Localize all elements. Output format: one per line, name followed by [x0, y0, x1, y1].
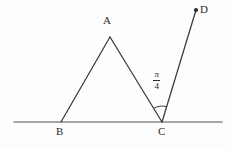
- geometry-canvas: [0, 0, 230, 149]
- point-D-dot: [194, 8, 198, 12]
- vertex-label-b: B: [56, 126, 63, 137]
- vertex-label-d: D: [200, 4, 208, 15]
- angle-measure-label: π 4: [148, 70, 166, 92]
- ray-CD: [162, 10, 196, 122]
- angle-arc-ACD: [154, 106, 167, 108]
- geometry-figure: A B C D π 4: [0, 0, 230, 149]
- fraction-numerator: π: [153, 70, 160, 79]
- vertex-label-a: A: [103, 15, 111, 26]
- segment-BA: [61, 37, 110, 122]
- fraction-denominator: 4: [153, 82, 160, 91]
- fraction-pi-over-4: π 4: [153, 70, 160, 91]
- vertex-label-c: C: [158, 126, 165, 137]
